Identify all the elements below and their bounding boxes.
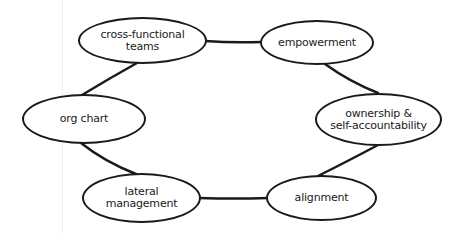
- node-label: ownership & self-accountability: [330, 108, 427, 132]
- node-lateral-management: lateral management: [82, 173, 201, 223]
- node-label: empowerment: [278, 37, 356, 49]
- node-label: lateral management: [106, 186, 178, 210]
- node-cross-functional-teams: cross-functional teams: [78, 17, 207, 64]
- node-empowerment: empowerment: [260, 20, 374, 65]
- node-org-chart: org chart: [22, 94, 146, 144]
- edge-empowerment-ownership: [325, 64, 378, 93]
- node-alignment: alignment: [266, 175, 377, 221]
- node-label: org chart: [60, 113, 108, 125]
- edge-alignment-lateral: [199, 198, 268, 199]
- node-label: alignment: [295, 192, 349, 204]
- edge-teams-empowerment: [205, 41, 262, 42]
- edge-ownership-alignment: [318, 145, 378, 176]
- edge-orgchart-teams: [82, 63, 137, 95]
- node-ownership-self-accountability: ownership & self-accountability: [315, 93, 442, 146]
- edge-lateral-orgchart: [81, 143, 136, 174]
- node-label: cross-functional teams: [100, 29, 184, 53]
